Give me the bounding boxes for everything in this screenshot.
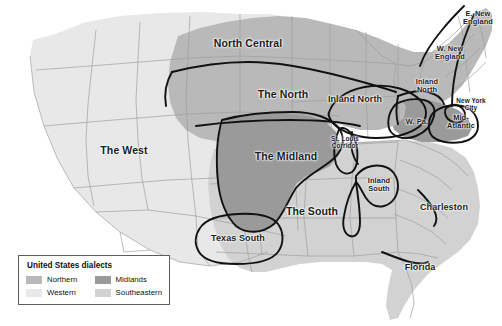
legend-label-midlands: Midlands bbox=[116, 275, 147, 284]
legend-label-northern: Northern bbox=[47, 275, 77, 284]
legend-label-southeastern: Southeastern bbox=[116, 288, 162, 297]
legend-item-midlands: Midlands bbox=[95, 275, 162, 284]
legend-swatch-midlands bbox=[95, 276, 111, 284]
legend-item-southeastern: Southeastern bbox=[95, 288, 162, 297]
legend-swatch-southeastern bbox=[95, 289, 111, 297]
legend-swatch-northern bbox=[26, 276, 42, 284]
map-legend: United States dialects Northern Midlands… bbox=[18, 255, 170, 305]
legend-swatch-western bbox=[26, 289, 42, 297]
legend-item-northern: Northern bbox=[26, 275, 91, 284]
us-dialects-map: North Central The North Inland North The… bbox=[0, 0, 502, 326]
legend-item-western: Western bbox=[26, 288, 91, 297]
legend-label-western: Western bbox=[47, 288, 76, 297]
legend-title: United States dialects bbox=[27, 261, 162, 270]
legend-items: Northern Midlands Western Southeastern bbox=[26, 275, 162, 297]
